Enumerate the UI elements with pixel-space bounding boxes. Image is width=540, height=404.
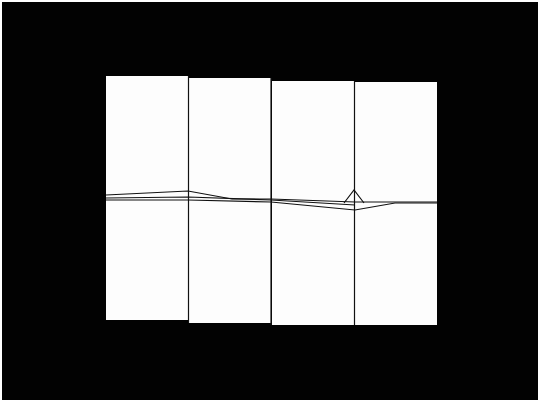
crease-lines — [0, 0, 540, 404]
